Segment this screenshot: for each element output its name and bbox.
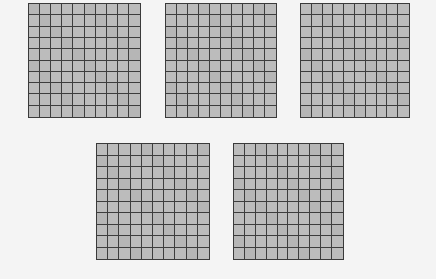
grid-cell bbox=[243, 4, 254, 15]
grid-cell bbox=[333, 94, 344, 105]
grid-cell bbox=[198, 225, 209, 237]
grid-cell bbox=[332, 179, 343, 191]
grid-cell bbox=[107, 61, 118, 72]
grid-cell bbox=[129, 94, 140, 105]
grid-cell bbox=[40, 106, 51, 117]
grid-cell bbox=[153, 213, 164, 225]
grid-cell bbox=[85, 4, 96, 15]
grid-cell bbox=[398, 4, 409, 15]
grid-cell bbox=[310, 167, 321, 179]
grid-cell bbox=[107, 15, 118, 26]
grid-cell bbox=[108, 190, 119, 202]
grid-cell bbox=[288, 236, 299, 248]
grid-cell bbox=[177, 15, 188, 26]
grid-cell bbox=[108, 248, 119, 260]
grid-cell bbox=[198, 213, 209, 225]
grid-cell bbox=[131, 190, 142, 202]
grid-cell bbox=[62, 4, 73, 15]
grid-cell bbox=[301, 106, 312, 117]
grid-cell bbox=[96, 106, 107, 117]
grid-cell bbox=[85, 61, 96, 72]
grid-cell bbox=[355, 27, 366, 38]
grid-cell bbox=[51, 106, 62, 117]
grid-cell bbox=[97, 202, 108, 214]
grid-cell bbox=[232, 106, 243, 117]
grid-cell bbox=[299, 144, 310, 156]
grid-cell bbox=[221, 27, 232, 38]
grid-cell bbox=[234, 156, 245, 168]
grid-cell bbox=[177, 94, 188, 105]
grid-cell bbox=[301, 27, 312, 38]
grid-cell bbox=[129, 38, 140, 49]
grid-cell bbox=[164, 156, 175, 168]
grid-cell bbox=[299, 156, 310, 168]
grid-cell bbox=[97, 144, 108, 156]
grid-cell bbox=[377, 15, 388, 26]
grid-cell bbox=[232, 27, 243, 38]
grid-cell bbox=[142, 225, 153, 237]
grid-cell bbox=[256, 225, 267, 237]
grid-cell bbox=[210, 61, 221, 72]
grid-cell bbox=[321, 167, 332, 179]
grid-cell bbox=[321, 236, 332, 248]
grid-cell bbox=[210, 49, 221, 60]
grid-cell bbox=[267, 213, 278, 225]
grid-cell bbox=[73, 4, 84, 15]
grid-cell bbox=[333, 4, 344, 15]
grid-cell bbox=[118, 4, 129, 15]
grid-cell bbox=[321, 144, 332, 156]
grid-cell bbox=[164, 236, 175, 248]
grid-cell bbox=[278, 225, 289, 237]
grid-cell bbox=[355, 94, 366, 105]
grid-cell bbox=[267, 167, 278, 179]
grid-cell bbox=[118, 94, 129, 105]
grid-cell bbox=[131, 213, 142, 225]
grid-cell bbox=[321, 156, 332, 168]
grid-cell bbox=[377, 72, 388, 83]
grid-cell bbox=[366, 83, 377, 94]
grid-cell bbox=[73, 15, 84, 26]
grid-cell bbox=[118, 72, 129, 83]
grid-cell bbox=[301, 72, 312, 83]
grid-cell bbox=[210, 38, 221, 49]
grid-cell bbox=[288, 179, 299, 191]
grid-cell bbox=[97, 156, 108, 168]
grid-cell bbox=[97, 190, 108, 202]
grid-cell bbox=[51, 15, 62, 26]
grid-cell bbox=[108, 167, 119, 179]
grid-cell bbox=[333, 72, 344, 83]
grid-cell bbox=[398, 61, 409, 72]
grid-cell bbox=[198, 190, 209, 202]
grid-cell bbox=[355, 38, 366, 49]
grid-cell bbox=[267, 190, 278, 202]
grid-cell bbox=[51, 72, 62, 83]
grid-cell bbox=[398, 106, 409, 117]
grid-cell bbox=[312, 94, 323, 105]
grid-cell bbox=[198, 236, 209, 248]
grid-cell bbox=[118, 27, 129, 38]
grid-cell bbox=[398, 94, 409, 105]
grid-cell bbox=[153, 190, 164, 202]
grid-cell bbox=[142, 167, 153, 179]
grid-cell bbox=[323, 61, 334, 72]
grid-cell bbox=[355, 61, 366, 72]
grid-cell bbox=[210, 94, 221, 105]
grid-cell bbox=[256, 202, 267, 214]
grid-cell bbox=[344, 4, 355, 15]
grid-cell bbox=[355, 106, 366, 117]
grid-cell bbox=[232, 15, 243, 26]
grid-cell bbox=[62, 94, 73, 105]
grid-cell bbox=[142, 248, 153, 260]
grid-cell bbox=[267, 156, 278, 168]
grid-cell bbox=[398, 27, 409, 38]
grid-cell bbox=[153, 167, 164, 179]
grid-cell bbox=[51, 61, 62, 72]
grid-cell bbox=[175, 156, 186, 168]
grid-cell bbox=[221, 49, 232, 60]
grid-cell bbox=[333, 27, 344, 38]
grid-cell bbox=[256, 248, 267, 260]
grid-cell bbox=[278, 167, 289, 179]
grid-cell bbox=[73, 27, 84, 38]
grid-cell bbox=[153, 202, 164, 214]
grid-cell bbox=[108, 144, 119, 156]
